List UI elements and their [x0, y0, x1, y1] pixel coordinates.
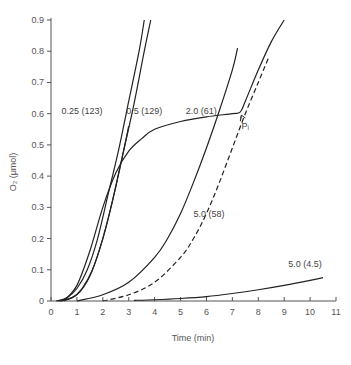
y-tick-label: 0.4: [31, 171, 44, 181]
series-line: [77, 48, 238, 301]
annotation-label: 2.0 (61): [186, 106, 217, 116]
y-tick-label: 0.2: [31, 234, 44, 244]
x-tick-label: 4: [152, 307, 157, 317]
y-tick-label: 0.6: [31, 109, 44, 119]
x-tick-label: 2: [100, 307, 105, 317]
series-line: [56, 20, 144, 301]
series-line: [134, 278, 323, 301]
x-tick-label: 5: [178, 307, 183, 317]
y-tick-label: 0: [39, 296, 44, 306]
y-tick-label: 0.8: [31, 46, 44, 56]
x-axis-label: Time (min): [172, 333, 215, 343]
axes: 0123456789101100.10.20.30.40.50.60.70.80…: [31, 15, 340, 317]
y-tick-label: 0.9: [31, 15, 44, 25]
chart: 0123456789101100.10.20.30.40.50.60.70.80…: [0, 0, 351, 365]
annotation-label: 0.25 (123): [62, 106, 103, 116]
y-tick-label: 0.3: [31, 202, 44, 212]
y-tick-label: 0.1: [31, 265, 44, 275]
x-tick-label: 0: [48, 307, 53, 317]
x-tick-label: 7: [230, 307, 235, 317]
annotation-label: 0.5 (129): [126, 106, 162, 116]
y-tick-label: 0.5: [31, 140, 44, 150]
x-tick-label: 1: [74, 307, 79, 317]
x-tick-label: 8: [256, 307, 261, 317]
y-axis-label: O₂ (μmol): [8, 153, 18, 192]
x-tick-label: 6: [204, 307, 209, 317]
x-tick-label: 10: [305, 307, 315, 317]
annotation-label: Pᵢ: [242, 121, 249, 131]
annotation-label: 5.0 (4.5): [288, 259, 322, 269]
curves: [56, 20, 323, 301]
series-line: [103, 57, 269, 301]
x-tick-label: 11: [331, 307, 340, 317]
y-tick-label: 0.7: [31, 77, 44, 87]
x-tick-label: 9: [282, 307, 287, 317]
x-tick-label: 3: [126, 307, 131, 317]
annotation-label: 5.0 (58): [194, 209, 225, 219]
